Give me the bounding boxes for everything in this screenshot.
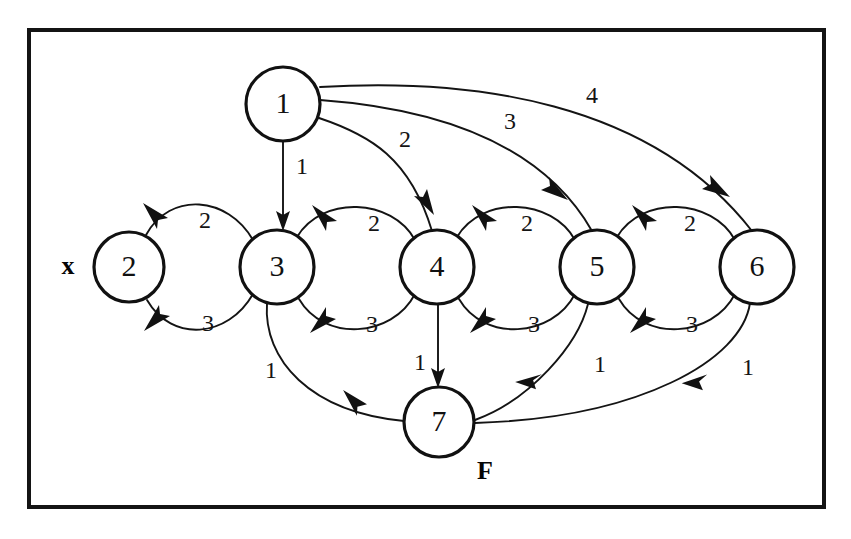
edge-4-to-3-lower: 3: [299, 294, 415, 337]
edge-line: [147, 294, 253, 330]
edge-3-to-2-lower: 3: [144, 294, 253, 336]
edge-label: 3: [202, 310, 214, 336]
edge-label: 2: [684, 210, 696, 236]
edge-label: 1: [265, 357, 277, 383]
edge-label: 2: [521, 210, 533, 236]
arrowhead-icon: [541, 177, 568, 200]
final-state-marker: F: [477, 456, 493, 485]
node-7[interactable]: 7: [404, 387, 474, 457]
node-label: 7: [432, 404, 447, 437]
node-3[interactable]: 3: [240, 230, 314, 304]
node-label: 5: [590, 249, 605, 282]
edge-label: 2: [199, 207, 211, 233]
node-6[interactable]: 6: [720, 230, 794, 304]
edge-3-to-2-upper: 2: [143, 203, 253, 240]
arrowhead-icon: [144, 305, 170, 331]
edge-line: [457, 207, 575, 240]
edge-label: 1: [594, 351, 606, 377]
edge-line: [617, 207, 735, 240]
edge-line: [297, 207, 415, 240]
arrowhead-icon: [339, 390, 369, 417]
edge-label: 3: [504, 108, 516, 134]
node-2[interactable]: 2: [94, 232, 164, 302]
edge-label: 3: [686, 311, 698, 337]
node-layer: 1 2 3 4 5 6: [94, 67, 794, 457]
edge-label: 1: [742, 354, 754, 380]
node-label: 3: [270, 249, 285, 282]
edge-label: 3: [528, 311, 540, 337]
edge-4-to-3-upper: 2: [297, 205, 415, 240]
node-label: 6: [750, 249, 765, 282]
edge-5-to-7: 1: [475, 304, 606, 420]
arrowhead-icon: [681, 371, 707, 390]
edge-label: 3: [366, 311, 378, 337]
edge-6-to-7: 1: [475, 303, 754, 423]
edge-1-to-3: 1: [276, 141, 308, 231]
arrowhead-icon: [630, 307, 656, 333]
node-1[interactable]: 1: [246, 67, 320, 141]
diagram-canvas: 1 2 3 4: [0, 0, 851, 539]
arrowhead-icon: [310, 307, 336, 333]
edge-1-to-5: 3: [320, 100, 592, 231]
node-4[interactable]: 4: [400, 230, 474, 304]
arrowhead-icon: [470, 307, 496, 333]
arrowhead-icon: [515, 368, 542, 389]
node-label: 2: [122, 249, 137, 282]
state-transition-diagram: 1 2 3 4: [0, 0, 851, 539]
node-5[interactable]: 5: [560, 230, 634, 304]
edge-label: 2: [368, 210, 380, 236]
edge-label: 1: [296, 153, 308, 179]
node-label: 4: [430, 249, 445, 282]
edge-label: 4: [586, 82, 598, 108]
edge-label: 2: [399, 126, 411, 152]
node-label: 1: [276, 86, 291, 119]
edge-3-to-7: 1: [265, 303, 404, 421]
edge-5-to-4-upper: 2: [457, 205, 575, 240]
arrowhead-icon: [702, 175, 730, 197]
start-state-marker: x: [62, 251, 75, 280]
edge-4-to-7: 1: [414, 304, 445, 388]
edge-label: 1: [414, 349, 426, 375]
edge-line: [320, 100, 592, 231]
edge-6-to-5-upper: 2: [617, 205, 735, 240]
arrowhead-icon: [143, 203, 168, 229]
edge-5-to-4-lower: 3: [459, 294, 575, 337]
edge-line: [267, 303, 404, 421]
edge-6-to-5-lower: 3: [619, 294, 735, 337]
